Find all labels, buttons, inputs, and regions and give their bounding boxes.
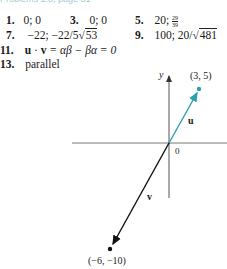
point-u	[197, 87, 201, 91]
vector-v	[113, 143, 169, 244]
vector-figure	[0, 0, 227, 269]
vector-v-label: v	[147, 191, 152, 202]
origin-label: 0	[175, 146, 180, 156]
y-axis-label: y	[159, 69, 163, 80]
vector-u-label: u	[188, 115, 194, 126]
point-v	[108, 247, 112, 251]
point-u-label: (3, 5)	[190, 70, 212, 81]
point-v-label: (−6, −10)	[88, 255, 126, 266]
